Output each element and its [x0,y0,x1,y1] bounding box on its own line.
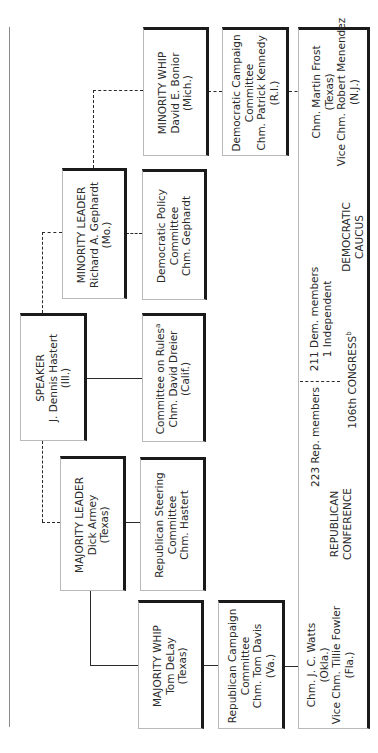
congress-label-text: 106th CONGRESS [346,336,358,429]
node-dem-campaign-line4: (R.I.) [267,34,280,151]
node-dem-policy: Democratic Policy Committee Chm. Gephard… [142,169,207,300]
dem-chairs-line2: (Texas) [323,18,336,166]
connector-speaker-rules [86,378,142,379]
connector-speaker-majority-leader-h [42,522,60,523]
node-dem-campaign-line3: Chm. Patrick Kennedy [255,34,268,151]
node-speaker-name: J. Dennis Hastert [46,334,59,422]
connector-majority-leader-steering [125,522,140,523]
connector-speaker-majority-leader-v [42,441,43,522]
rep-chairs: Chm. J. C. Watts (Okla.) Vice Chm. Tilli… [305,606,355,724]
node-majority-leader-state: (Texas) [98,477,111,573]
footnote-a: a [154,323,162,327]
dem-caucus-line2: CAUCUS [352,202,365,271]
node-dem-campaign: Democratic Campaign Committee Chm. Patri… [222,27,289,156]
rep-members: 223 Rep. members [309,387,322,487]
congress-divider [300,381,340,382]
node-dem-policy-line2: Committee [167,188,180,282]
node-minority-leader: MINORITY LEADER Richard A. Gephardt (Mo.… [62,168,127,299]
node-rep-steering: Republican Steering Committee Chm. Haste… [140,457,206,591]
node-rep-campaign-line2: Committee [238,608,251,723]
node-majority-whip-name: Tom DeLay [164,625,177,707]
node-speaker-title: SPEAKER [34,334,47,422]
node-dem-policy-line3: Chm. Gephardt [180,188,193,282]
dem-members: 211 Dem. members 1 Independent [308,267,333,372]
node-rep-steering-line1: Republican Steering [153,472,166,578]
dem-caucus-line1: DEMOCRATIC [340,202,353,271]
connector-majority-leader-whip-h [90,665,138,666]
node-rep-steering-line3: Chm. Hastert [178,472,191,578]
node-majority-whip-state: (Texas) [176,625,189,707]
connector-speaker-minority-leader [42,232,43,313]
node-rep-campaign-line1: Republican Campaign [226,608,239,723]
footnote-b: b [345,331,353,335]
connector-majority-leader-whip-v [90,590,91,665]
connector-rep-campaign-conference [284,666,298,667]
connector-minority-leader-policy [126,233,142,234]
dem-members-line2: 1 Independent [320,267,333,372]
node-rules-line3: (Calif.) [179,323,192,434]
node-minority-leader-name: Richard A. Gephardt [87,181,100,287]
node-dem-campaign-line2: Committee [242,34,255,151]
node-minority-whip: MINORITY WHIP David E. Bonior (Mich.) [143,27,209,156]
rep-members-text: 223 Rep. members [309,387,322,487]
rep-conference-line2: CONFERENCE [340,488,353,560]
connector-minority-leader-whip-v [93,90,94,168]
rep-conference-label: REPUBLICAN CONFERENCE [328,488,353,560]
node-rep-campaign: Republican Campaign Committee Chm. Tom D… [218,600,285,729]
node-rules-line1: Committee on Rulesa [154,323,167,434]
rep-conference-line1: REPUBLICAN [328,488,341,560]
rep-chairs-line3: Vice Chm. Tillie Fowler [330,606,343,724]
node-rep-campaign-line4: (Va.) [263,608,276,723]
connector-minority-leader-stub [42,232,62,233]
node-rep-campaign-line3: Chm. Tom Davis [251,608,264,723]
node-minority-leader-state: (Mo.) [100,181,113,287]
node-minority-whip-state: (Mich.) [181,51,194,134]
node-rules-title: Committee on Rules [154,327,166,433]
dem-caucus-label: DEMOCRATIC CAUCUS [340,202,365,271]
node-rules-line2: Chm. David Dreier [167,323,180,434]
node-speaker-state: (Ill.) [59,334,72,422]
node-majority-leader-title: MAJORITY LEADER [73,477,86,573]
node-dem-policy-line1: Democratic Policy [155,188,168,282]
rep-chairs-line2: (Okla.) [318,606,331,724]
rep-chairs-line4: (Fla.) [343,606,356,724]
node-minority-leader-title: MINORITY LEADER [75,181,88,287]
node-majority-leader-name: Dick Armey [86,477,99,573]
node-minority-whip-name: David E. Bonior [169,51,182,134]
node-majority-whip: MAJORITY WHIP Tom DeLay (Texas) [138,600,204,729]
dem-members-line1: 211 Dem. members [308,267,321,372]
node-speaker: SPEAKER J. Dennis Hastert (Ill.) [20,313,87,441]
node-rules: Committee on Rulesa Chm. David Dreier (C… [142,313,206,442]
page-margin-rule [9,27,10,727]
dem-chairs-line3: Vice Chm. Robert Menendez [335,18,348,166]
connector-whip-rep-campaign [203,665,218,666]
connector-minority-leader-whip-h [93,90,143,91]
dem-chairs: Chm. Martin Frost (Texas) Vice Chm. Robe… [310,18,360,166]
dem-chairs-line4: (N.J.) [348,18,361,166]
node-majority-whip-title: MAJORITY WHIP [151,625,164,707]
node-dem-campaign-line1: Democratic Campaign [230,34,243,151]
congress-label: 106th CONGRESSb [346,331,359,428]
rep-chairs-line1: Chm. J. C. Watts [305,606,318,724]
node-majority-leader: MAJORITY LEADER Dick Armey (Texas) [60,456,126,591]
node-minority-whip-title: MINORITY WHIP [156,51,169,134]
connector-whip-dem-campaign [208,91,222,92]
node-rep-steering-line2: Committee [166,472,179,578]
dem-chairs-line1: Chm. Martin Frost [310,18,323,166]
